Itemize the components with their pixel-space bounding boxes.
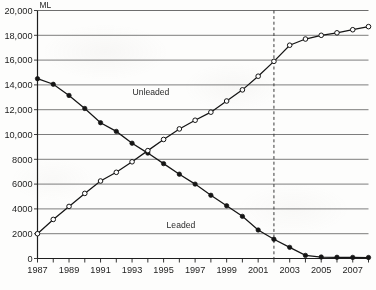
data-point-unleaded	[130, 159, 135, 164]
gasoline-sales-line-chart: 0200040006000800010,00012,00014,00016,00…	[0, 0, 376, 290]
data-point-unleaded	[177, 127, 182, 132]
x-axis-tick-label: 1989	[59, 265, 79, 275]
data-point-unleaded	[224, 99, 229, 104]
x-axis-tick-label: 1995	[153, 265, 173, 275]
x-axis-tick-label: 1997	[185, 265, 205, 275]
data-point-leaded	[193, 182, 197, 186]
y-axis-tick-label: 20,000	[4, 6, 32, 16]
data-point-unleaded	[240, 88, 245, 93]
data-point-unleaded	[161, 137, 166, 142]
y-axis-tick-label: 12,000	[4, 105, 32, 115]
y-axis-tick-label: 4000	[12, 204, 32, 214]
x-axis-tick-label: 1993	[122, 265, 142, 275]
y-axis-unit-label: ML	[40, 0, 52, 10]
x-axis-tick-label: 2005	[311, 265, 331, 275]
chart-canvas: 0200040006000800010,00012,00014,00016,00…	[0, 0, 376, 290]
data-point-unleaded	[146, 148, 151, 153]
data-point-unleaded	[335, 31, 340, 36]
data-point-leaded	[209, 193, 213, 197]
y-axis-tick-label: 18,000	[4, 31, 32, 41]
x-axis-tick-label: 2003	[279, 265, 299, 275]
y-axis-tick-label: 8000	[12, 155, 32, 165]
data-point-unleaded	[303, 37, 308, 42]
data-point-leaded	[224, 204, 228, 208]
y-axis-tick-label: 0	[27, 254, 32, 264]
data-point-unleaded	[82, 191, 87, 196]
data-point-leaded	[287, 245, 291, 249]
y-axis-tick-label: 2000	[12, 229, 32, 239]
data-point-leaded	[98, 121, 102, 125]
data-point-unleaded	[319, 33, 324, 38]
data-point-unleaded	[256, 74, 261, 79]
x-axis-tick-label: 1987	[27, 265, 47, 275]
data-point-unleaded	[98, 179, 103, 184]
data-point-leaded	[351, 255, 355, 259]
data-point-unleaded	[350, 27, 355, 32]
x-axis-tick-label: 2007	[343, 265, 363, 275]
series-line-unleaded	[38, 27, 369, 234]
y-axis-tick-label: 10,000	[4, 130, 32, 140]
data-point-unleaded	[114, 170, 119, 175]
data-point-leaded	[240, 214, 244, 218]
data-point-leaded	[177, 172, 181, 176]
data-point-leaded	[366, 255, 370, 259]
data-point-unleaded	[287, 43, 292, 48]
data-point-leaded	[35, 77, 39, 81]
data-point-leaded	[303, 253, 307, 257]
data-point-unleaded	[51, 217, 56, 222]
data-point-leaded	[83, 106, 87, 110]
x-axis-tick-label: 1991	[90, 265, 110, 275]
data-point-leaded	[51, 82, 55, 86]
y-axis-tick-label: 6000	[12, 179, 32, 189]
data-point-leaded	[114, 129, 118, 133]
data-point-unleaded	[35, 231, 40, 236]
data-point-leaded	[256, 228, 260, 232]
data-point-leaded	[130, 141, 134, 145]
y-axis-tick-label: 16,000	[4, 55, 32, 65]
data-point-unleaded	[209, 110, 214, 115]
data-point-leaded	[272, 237, 276, 241]
data-point-leaded	[161, 161, 165, 165]
data-point-leaded	[319, 255, 323, 259]
series-label-leaded: Leaded	[167, 220, 196, 230]
y-axis-tick-label: 14,000	[4, 80, 32, 90]
x-axis-tick-label: 2001	[248, 265, 268, 275]
data-point-unleaded	[272, 59, 277, 64]
series-line-leaded	[38, 79, 369, 258]
data-point-unleaded	[366, 24, 371, 29]
x-axis-tick-label: 1999	[216, 265, 236, 275]
series-label-unleaded: Unleaded	[133, 87, 170, 97]
data-point-leaded	[335, 255, 339, 259]
data-point-leaded	[67, 93, 71, 97]
data-point-unleaded	[193, 118, 198, 123]
data-point-unleaded	[67, 204, 72, 209]
